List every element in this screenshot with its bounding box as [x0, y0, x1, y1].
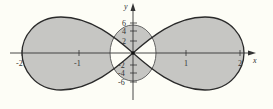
x-axis-label: x — [252, 56, 257, 65]
chart-svg: -2 -1 1 2 6 4 2 -2 -4 -6 y x — [0, 0, 273, 109]
y-axis-arrow-icon — [131, 3, 136, 11]
x-tick-label: 1 — [184, 59, 188, 68]
polar-region-figure: -2 -1 1 2 6 4 2 -2 -4 -6 y x — [0, 0, 273, 109]
x-tick-label: 2 — [238, 59, 242, 68]
x-axis-arrow-icon — [248, 51, 256, 56]
y-axis-label: y — [123, 2, 128, 11]
y-tick-label: -4 — [118, 69, 125, 78]
y-tick-label: 2 — [122, 37, 126, 46]
x-tick-label: -1 — [74, 59, 81, 68]
y-tick-label: -6 — [118, 78, 125, 87]
y-tick-label: 4 — [122, 27, 126, 36]
x-tick-label: -2 — [16, 59, 23, 68]
origin-point — [131, 51, 135, 55]
